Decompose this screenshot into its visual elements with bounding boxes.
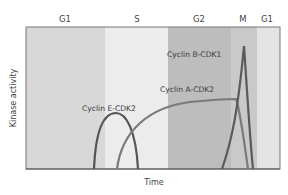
phase-label-g1: G1 xyxy=(59,14,71,24)
phase-label-g1-2: G1 xyxy=(261,14,273,24)
kinase-activity-chart: G1 S G2 M G1 Cyclin E-CDK2 Cyclin A-CDK2… xyxy=(0,0,288,195)
label-cyclin-b-cdk1: Cyclin B-CDK1 xyxy=(167,50,221,59)
phase-band-g1 xyxy=(26,27,105,169)
phase-band-g1-2 xyxy=(257,27,280,169)
y-axis-label: Kinase activity xyxy=(9,68,18,127)
label-cyclin-a-cdk2: Cyclin A-CDK2 xyxy=(160,85,214,94)
phase-label-s: S xyxy=(134,14,139,24)
label-cyclin-e-cdk2: Cyclin E-CDK2 xyxy=(82,104,136,113)
phase-band-g2 xyxy=(168,27,231,169)
phase-labels: G1 S G2 M G1 xyxy=(59,14,273,24)
phase-label-g2: G2 xyxy=(193,14,205,24)
phase-label-m: M xyxy=(239,14,246,24)
phase-bands xyxy=(26,27,280,169)
x-axis-label: Time xyxy=(143,178,164,187)
